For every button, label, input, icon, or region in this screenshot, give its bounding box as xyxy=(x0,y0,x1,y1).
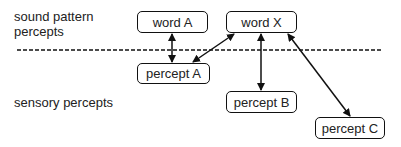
node-percept-b: percept B xyxy=(226,91,297,113)
node-percept-a: percept A xyxy=(137,63,210,84)
edge-wordX-perceptC xyxy=(288,34,350,116)
node-word-a: word A xyxy=(137,11,208,33)
edge-wordX-perceptA xyxy=(193,34,234,62)
node-percept-c: percept C xyxy=(315,117,385,139)
node-word-x: word X xyxy=(226,11,297,33)
